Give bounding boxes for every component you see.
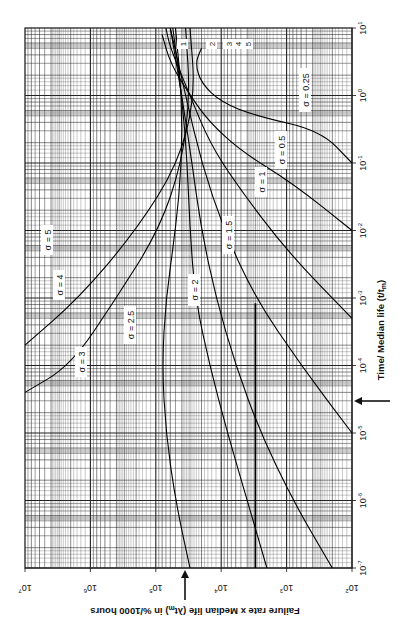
time-tick-label: 10-5 bbox=[357, 425, 368, 441]
svg-text:σ = 2: σ = 2 bbox=[190, 280, 200, 301]
time-tick-label: 10-1 bbox=[357, 155, 368, 171]
svg-text:σ = 3: σ = 3 bbox=[77, 352, 87, 373]
rate-tick-label: 107 bbox=[18, 583, 32, 594]
svg-text:σ = 4: σ = 4 bbox=[55, 275, 65, 296]
svg-text:103: 103 bbox=[279, 583, 293, 594]
x-axis-title: Time/ Median life (t/tm) bbox=[375, 280, 387, 381]
label-n5: 5 bbox=[242, 39, 253, 49]
svg-text:1: 1 bbox=[179, 41, 188, 46]
rate-axis-arrow-icon bbox=[181, 570, 189, 600]
svg-text:101: 101 bbox=[357, 21, 368, 35]
time-tick-label: 10-7 bbox=[357, 560, 368, 576]
svg-text:2: 2 bbox=[208, 41, 217, 46]
label-n4: 4 bbox=[232, 39, 243, 49]
svg-text:σ = 2.5: σ = 2.5 bbox=[126, 311, 136, 339]
time-tick-label: 100 bbox=[357, 88, 368, 102]
rate-tick-label: 106 bbox=[83, 583, 97, 594]
svg-text:σ = 1.5: σ = 1.5 bbox=[224, 221, 234, 249]
rate-tick-label: 102 bbox=[345, 583, 359, 594]
y-axis-title: Failure rate x Median life (λtm) in %/10… bbox=[90, 605, 300, 617]
label-n2: 2 bbox=[206, 39, 217, 49]
rate-tick-label: 103 bbox=[279, 583, 293, 594]
svg-text:104: 104 bbox=[214, 583, 228, 594]
rate-tick-label: 104 bbox=[214, 583, 228, 594]
svg-text:106: 106 bbox=[83, 583, 97, 594]
svg-text:σ = 0.25: σ = 0.25 bbox=[301, 73, 311, 106]
label-sigma-4: σ = 4 bbox=[53, 270, 65, 300]
label-sigma-2: σ = 2 bbox=[188, 274, 200, 306]
svg-text:100: 100 bbox=[357, 88, 368, 102]
label-sigma-1-5: σ = 1.5 bbox=[222, 216, 234, 254]
label-sigma-3: σ = 3 bbox=[75, 347, 87, 377]
label-n1: 1 bbox=[177, 39, 188, 49]
time-tick-label: 10-2 bbox=[357, 222, 368, 238]
time-tick-label: 10-3 bbox=[357, 290, 368, 306]
svg-text:10-2: 10-2 bbox=[357, 222, 368, 238]
svg-text:10-7: 10-7 bbox=[357, 560, 368, 576]
svg-text:σ = 1: σ = 1 bbox=[257, 172, 267, 193]
svg-text:10-3: 10-3 bbox=[357, 290, 368, 306]
svg-text:5: 5 bbox=[244, 41, 253, 46]
time-tick-label: 10-4 bbox=[357, 357, 368, 373]
label-sigma-0-5: σ = 0.5 bbox=[275, 131, 287, 169]
label-sigma-5: σ = 5 bbox=[41, 225, 53, 255]
label-sigma-2-5: σ = 2.5 bbox=[124, 306, 136, 344]
svg-text:10-5: 10-5 bbox=[357, 425, 368, 441]
svg-text:10-6: 10-6 bbox=[357, 492, 368, 508]
svg-text:σ = 0.5: σ = 0.5 bbox=[277, 136, 287, 164]
svg-text:102: 102 bbox=[345, 583, 359, 594]
label-sigma-1: σ = 1 bbox=[255, 167, 267, 197]
svg-text:105: 105 bbox=[148, 583, 162, 594]
svg-text:10-1: 10-1 bbox=[357, 155, 368, 171]
svg-text:10-4: 10-4 bbox=[357, 357, 368, 373]
svg-text:σ = 5: σ = 5 bbox=[43, 230, 53, 251]
time-tick-label: 10-6 bbox=[357, 492, 368, 508]
rate-tick-label: 105 bbox=[148, 583, 162, 594]
time-tick-label: 101 bbox=[357, 21, 368, 35]
label-sigma-0-25: σ = 0.25 bbox=[299, 68, 311, 112]
time-axis-arrow-icon bbox=[354, 397, 390, 405]
svg-text:107: 107 bbox=[18, 583, 32, 594]
lognormal-failure-rate-chart: 10-710-610-510-410-310-210-1100101102103… bbox=[0, 0, 403, 629]
svg-text:4: 4 bbox=[234, 41, 243, 46]
